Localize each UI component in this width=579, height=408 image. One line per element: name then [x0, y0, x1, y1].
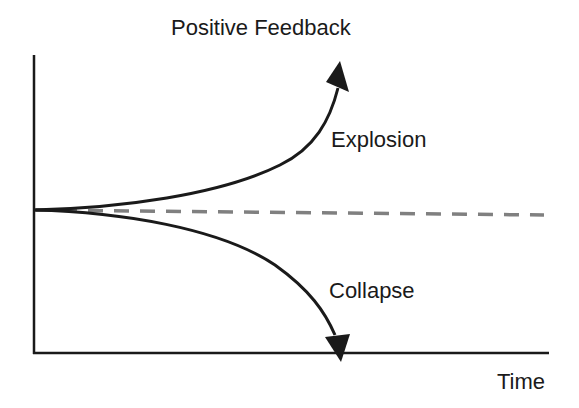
collapse-label: Collapse: [329, 280, 415, 302]
diagram-title: Positive Feedback: [171, 17, 351, 39]
explosion-arrowhead-icon: [326, 61, 349, 92]
x-axis-label: Time: [497, 371, 545, 393]
explosion-label: Explosion: [331, 129, 426, 151]
collapse-arrowhead-icon: [325, 334, 350, 362]
collapse-curve: [34, 210, 335, 335]
explosion-curve: [34, 88, 338, 210]
diagram-canvas: [0, 0, 579, 408]
positive-feedback-diagram: Positive Feedback Explosion Collapse Tim…: [0, 0, 579, 408]
